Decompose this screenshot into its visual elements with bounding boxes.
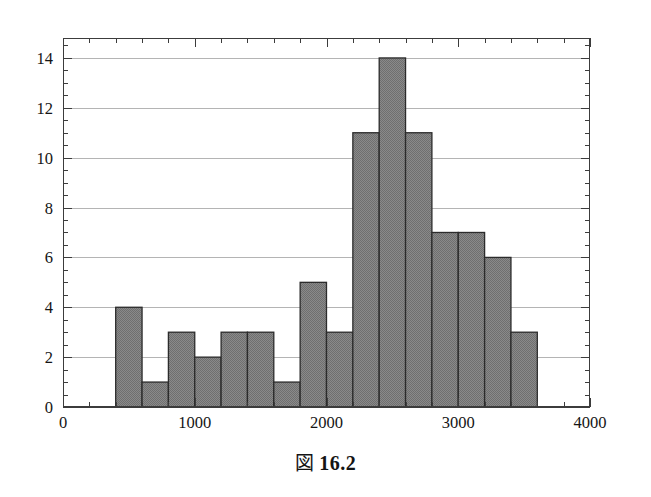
y-tick-label-14: 14 (37, 49, 54, 68)
y-tick-label-12: 12 (37, 99, 54, 118)
y-tick-label-8: 8 (45, 199, 53, 218)
histogram-bar (168, 332, 194, 407)
histogram-bar (485, 257, 511, 407)
figure-caption: 図16.2 (0, 448, 651, 475)
x-tick-label-0: 0 (59, 413, 67, 432)
histogram-bar (300, 282, 326, 407)
x-tick-label-2000: 2000 (310, 413, 343, 432)
y-tick-label-10: 10 (37, 149, 54, 168)
histogram-bar (406, 133, 432, 407)
histogram-chart: 01000200030004000 02468101214 (0, 0, 651, 440)
figure-marker-glyph: 図 (295, 452, 315, 474)
histogram-bar (432, 232, 458, 407)
histogram-bar (221, 332, 247, 407)
y-tick-label-2: 2 (45, 348, 53, 367)
histogram-bar (327, 332, 353, 407)
x-tick-label-4000: 4000 (574, 413, 607, 432)
histogram-bar (195, 357, 221, 407)
histogram-bar (142, 382, 168, 407)
histogram-bar (511, 332, 537, 407)
histogram-bar (116, 307, 142, 407)
histogram-bar (379, 58, 405, 407)
x-axis-tick-labels: 01000200030004000 (59, 413, 607, 432)
x-tick-label-3000: 3000 (442, 413, 475, 432)
y-axis-tick-labels: 02468101214 (37, 49, 54, 417)
x-tick-label-1000: 1000 (178, 413, 211, 432)
histogram-bar (247, 332, 273, 407)
y-tick-label-0: 0 (45, 398, 53, 417)
figure-container: 01000200030004000 02468101214 図16.2 (0, 0, 651, 497)
histogram-bar (274, 382, 300, 407)
y-tick-label-6: 6 (45, 248, 53, 267)
histogram-bar (353, 133, 379, 407)
figure-number: 16.2 (319, 452, 356, 474)
y-tick-label-4: 4 (45, 298, 53, 317)
histogram-bar (458, 232, 484, 407)
